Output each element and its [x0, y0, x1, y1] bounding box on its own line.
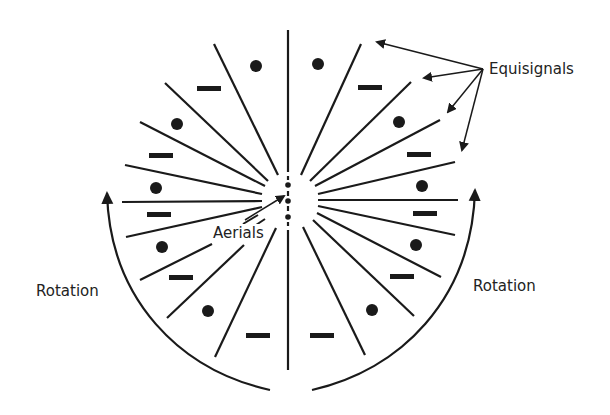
dash-symbol [358, 85, 382, 90]
dot-symbol [312, 58, 324, 70]
aerial-dot [285, 182, 291, 188]
dash-symbol [147, 212, 171, 217]
rotation-right-label: Rotation [473, 277, 536, 295]
dot-symbol [393, 116, 405, 128]
dot-symbol [202, 305, 214, 317]
rotation-arrow-right [312, 190, 475, 390]
dash-symbol [246, 333, 270, 338]
dash-symbol [413, 211, 437, 216]
dash-symbol [149, 153, 173, 158]
aerial-dot [285, 198, 291, 204]
dash-symbol [310, 333, 334, 338]
dash-symbol [197, 86, 221, 91]
right-beam-lines [301, 44, 458, 355]
dot-symbol [250, 60, 262, 72]
dot-symbol [410, 239, 422, 251]
dash-symbol [390, 274, 414, 279]
dash-symbol [407, 152, 431, 157]
equisignals-pointers [377, 42, 483, 150]
equisignals-label: Equisignals [489, 60, 574, 78]
dash-symbol [169, 275, 193, 280]
aerials-pointer [245, 196, 284, 220]
aerials [285, 182, 291, 220]
aerials-label: Aerials [212, 224, 265, 242]
dot-symbol [156, 241, 168, 253]
dot-symbol [416, 180, 428, 192]
rotation-left-label: Rotation [36, 282, 99, 300]
dot-symbol [366, 304, 378, 316]
dot-symbol [150, 182, 162, 194]
aerial-dot [285, 214, 291, 220]
dot-symbol [171, 118, 183, 130]
